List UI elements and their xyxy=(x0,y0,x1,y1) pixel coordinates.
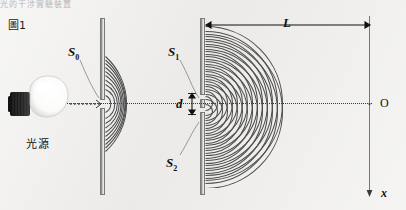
label-slit-separation-d: d xyxy=(176,96,183,112)
label-s1-subscript: 1 xyxy=(175,53,179,62)
label-s0-subscript: 0 xyxy=(75,53,79,62)
label-s1: S1 xyxy=(168,44,179,62)
light-bulb-icon xyxy=(8,76,68,117)
leader-line-s2 xyxy=(180,122,199,155)
x-axis-arrowhead xyxy=(367,190,373,197)
label-s2: S2 xyxy=(166,155,177,173)
label-s2-subscript: 2 xyxy=(173,164,177,173)
label-origin-o: O xyxy=(380,96,389,111)
label-s0: S0 xyxy=(68,44,79,62)
leader-line-s1 xyxy=(180,60,199,98)
diagram-vector-layer xyxy=(0,0,406,210)
label-light-source: 光源 xyxy=(26,135,50,151)
single-slit-wavefronts xyxy=(105,57,127,152)
dimension-arrow-d xyxy=(188,94,196,115)
label-x-axis: x xyxy=(381,186,387,201)
label-screen-distance-L: L xyxy=(283,15,291,31)
figure-diagram-youngs-double-slit: 光的干涉實驗裝置 圖1 xyxy=(0,0,406,210)
leader-line-s0 xyxy=(80,60,99,98)
origin-point-marker xyxy=(368,103,370,105)
